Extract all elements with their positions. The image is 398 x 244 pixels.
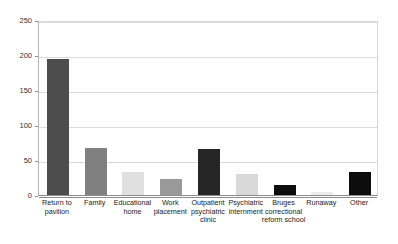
bar [85, 148, 107, 195]
bar [274, 185, 296, 196]
bar [311, 192, 333, 196]
bar [122, 172, 144, 195]
bar [198, 149, 220, 195]
x-axis: Return to pavilionFamilyEducational home… [38, 199, 378, 244]
bar-chart: 050100150200250 Return to pavilionFamily… [0, 0, 398, 244]
plot-area [38, 21, 378, 196]
y-tick-mark-0 [35, 196, 38, 197]
y-tick-label-100: 100 [2, 122, 32, 130]
y-tick-label-150: 150 [2, 87, 32, 95]
y-tick-label-200: 200 [2, 52, 32, 60]
y-tick-label-0: 0 [2, 192, 32, 200]
x-tick-label: Other [336, 199, 382, 208]
bar [47, 59, 69, 196]
y-tick-label-250: 250 [2, 17, 32, 25]
bar-series [39, 22, 377, 195]
bar [160, 179, 182, 195]
bar [236, 174, 258, 195]
y-tick-label-50: 50 [2, 157, 32, 165]
bar [349, 172, 371, 195]
